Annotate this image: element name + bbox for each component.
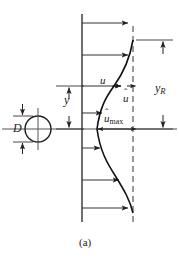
label-wake-half-width: yR	[155, 82, 166, 96]
y-dimension	[56, 86, 84, 129]
label-distance-y: y	[64, 94, 69, 106]
label-max-defect-base: u	[104, 112, 110, 124]
label-diameter: D	[13, 122, 22, 134]
label-velocity-defect-base: u	[123, 92, 129, 104]
label-velocity-u: u	[100, 75, 106, 86]
figure-caption: (a)	[79, 237, 91, 248]
label-max-defect-subscript: max	[110, 117, 124, 126]
label-velocity-defect-uhat: ̂ u	[123, 93, 129, 104]
label-wake-half-width-subscript: R	[160, 86, 165, 96]
wake-profile-figure: D y u ̂ u ̂ u max yR (a)	[0, 0, 179, 263]
figure-drawing	[0, 0, 179, 263]
wake-profile-curve	[97, 40, 133, 213]
label-max-velocity-defect: ̂ u max	[104, 113, 123, 126]
